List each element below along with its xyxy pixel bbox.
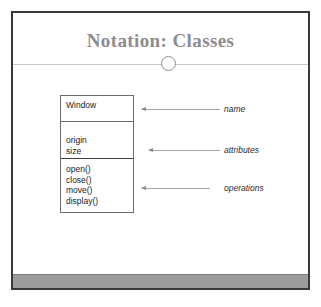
slide-footer-bar: [13, 274, 310, 288]
class-name-compartment: Window: [61, 96, 133, 122]
uml-class-box: Window origin size open() close() move()…: [60, 95, 134, 213]
circle-decoration-icon: [161, 56, 176, 71]
operation-item: close(): [66, 175, 128, 186]
attribute-item: size: [66, 146, 128, 157]
operation-item: move(): [66, 185, 128, 196]
annotation-label-attributes: attributes: [224, 145, 259, 155]
attribute-item: origin: [66, 135, 128, 146]
operation-item: open(): [66, 164, 128, 175]
page-title: Notation: Classes: [13, 30, 308, 52]
annotation-arrow-attributes: [149, 150, 220, 151]
class-name-label: Window: [66, 100, 128, 111]
slide-frame: Notation: Classes Window origin size ope…: [11, 11, 310, 290]
annotation-label-name: name: [224, 104, 245, 114]
annotation-arrow-name: [142, 109, 220, 110]
annotation-label-operations: operations: [224, 183, 264, 193]
operation-item: display(): [66, 196, 128, 207]
annotation-arrow-operations: [142, 188, 210, 189]
operations-compartment: open() close() move() display(): [61, 159, 133, 212]
attributes-compartment: origin size: [61, 122, 133, 159]
